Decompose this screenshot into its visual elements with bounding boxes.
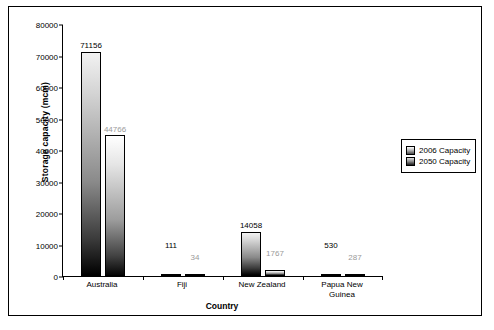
bar-label-fiji-2050: 34 <box>175 253 215 262</box>
bar-label-australia-2050: 44766 <box>95 125 135 134</box>
legend-item-2050[interactable]: 2050 Capacity <box>406 157 470 166</box>
bar-fiji-2050[interactable] <box>185 274 205 276</box>
bar-new-zealand-2050[interactable] <box>265 270 285 276</box>
x-label-line1: Australia <box>62 280 142 290</box>
y-tick-label: 20000 <box>36 210 63 219</box>
bar-papua-new-guinea-2050[interactable] <box>345 274 365 276</box>
x-label-line1: Fiji <box>142 280 222 290</box>
y-tick-label: 10000 <box>36 241 63 250</box>
y-tick-label: 70000 <box>36 52 63 61</box>
bar-papua-new-guinea-2006[interactable] <box>321 274 341 276</box>
y-axis-title: Storage capacity (mcm) <box>40 52 50 212</box>
y-tick-label: 50000 <box>36 115 63 124</box>
y-tick-label: 80000 <box>36 21 63 30</box>
bar-group-australia: 71156 44766 <box>63 25 143 276</box>
chart-legend: 2006 Capacity 2050 Capacity <box>401 139 476 173</box>
y-tick-label: 40000 <box>36 147 63 156</box>
plot-area: 80000 70000 60000 50000 40000 30000 2000… <box>62 25 382 277</box>
x-label-fiji: Fiji <box>142 280 222 290</box>
x-tickmark <box>382 276 383 280</box>
legend-label-2050: 2050 Capacity <box>419 157 470 166</box>
x-label-australia: Australia <box>62 280 142 290</box>
bar-australia-2006[interactable] <box>81 52 101 276</box>
chart-root: Storage capacity (mcm) 80000 70000 60000… <box>0 0 494 330</box>
bar-australia-2050[interactable] <box>105 135 125 276</box>
legend-item-2006[interactable]: 2006 Capacity <box>406 146 470 155</box>
y-tick-label: 60000 <box>36 84 63 93</box>
x-axis-title: Country <box>62 301 382 311</box>
bar-fiji-2006[interactable] <box>161 274 181 276</box>
bar-group-new-zealand: 14058 1767 <box>223 25 303 276</box>
bar-label-fiji-2006: 111 <box>151 241 191 250</box>
x-label-papua-new-guinea: Papua New Guinea <box>302 280 382 300</box>
y-tick-label: 30000 <box>36 178 63 187</box>
bar-group-papua-new-guinea: 530 287 <box>303 25 383 276</box>
legend-label-2006: 2006 Capacity <box>419 146 470 155</box>
x-label-new-zealand: New Zealand <box>222 280 302 290</box>
chart-frame: Storage capacity (mcm) 80000 70000 60000… <box>8 6 482 316</box>
bar-group-fiji: 111 34 <box>143 25 223 276</box>
bar-label-papua-new-guinea-2006: 530 <box>311 241 351 250</box>
bar-label-australia-2006: 71156 <box>71 41 111 50</box>
x-label-line1: New Zealand <box>222 280 302 290</box>
bar-label-new-zealand-2006: 14058 <box>229 221 273 230</box>
x-label-line2: Guinea <box>302 290 382 300</box>
legend-swatch-icon <box>406 146 415 155</box>
x-label-line1: Papua New <box>302 280 382 290</box>
bar-label-papua-new-guinea-2050: 287 <box>335 253 375 262</box>
legend-swatch-icon <box>406 157 415 166</box>
bar-label-new-zealand-2050: 1767 <box>255 249 295 258</box>
bars-layer: 71156 44766 111 34 14058 1767 <box>63 25 382 276</box>
